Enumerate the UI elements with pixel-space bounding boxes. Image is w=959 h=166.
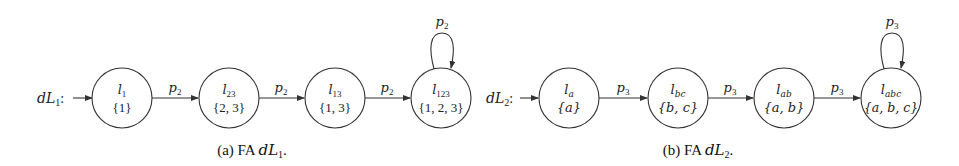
caption-b: (b) FA dL2. bbox=[663, 141, 734, 160]
state-lab: lab {a, b} bbox=[754, 68, 814, 128]
self-loop-labc: p3 bbox=[881, 14, 903, 69]
transition-l23-l13: p2 bbox=[259, 80, 304, 98]
automaton-label: dL1: bbox=[37, 90, 64, 108]
svg-text:{1}: {1} bbox=[113, 100, 132, 115]
svg-text:{a, b, c}: {a, b, c} bbox=[864, 100, 918, 115]
automata-figure: dL1: l1 {1} l23 {2, 3} l13 {1, 3} l123 {… bbox=[0, 0, 959, 166]
fa-dl2: dL2: la {a} lbc {b, c} lab {a, b} labc {… bbox=[486, 14, 921, 160]
svg-text:p3: p3 bbox=[617, 80, 630, 97]
transition-lbc-lab: p3 bbox=[708, 80, 753, 98]
transition-l1-l23: p2 bbox=[152, 80, 198, 98]
transition-l13-l123: p2 bbox=[365, 80, 410, 98]
state-l23: l23 {2, 3} bbox=[199, 68, 259, 128]
state-l13: l13 {1, 3} bbox=[305, 68, 365, 128]
svg-text:p3: p3 bbox=[724, 80, 737, 97]
transition-lab-labc: p3 bbox=[814, 80, 860, 98]
state-l1: l1 {1} bbox=[92, 68, 152, 128]
svg-text:p2: p2 bbox=[381, 80, 394, 97]
svg-text:p3: p3 bbox=[886, 14, 899, 31]
svg-text:{2, 3}: {2, 3} bbox=[213, 100, 245, 115]
automaton-label: dL2: bbox=[486, 90, 513, 108]
transition-la-lbc: p3 bbox=[599, 80, 647, 98]
svg-text:{1, 2, 3}: {1, 2, 3} bbox=[419, 100, 464, 115]
svg-text:{1, 3}: {1, 3} bbox=[319, 100, 351, 115]
svg-text:p2: p2 bbox=[169, 80, 182, 97]
svg-text:p2: p2 bbox=[436, 14, 449, 31]
state-la: la {a} bbox=[539, 68, 599, 128]
svg-text:{a}: {a} bbox=[557, 100, 581, 115]
self-loop-l123: p2 bbox=[431, 14, 453, 69]
svg-text:p2: p2 bbox=[275, 80, 288, 97]
svg-text:{b, c}: {b, c} bbox=[658, 100, 698, 115]
state-labc: labc {a, b, c} bbox=[861, 68, 921, 128]
state-lbc: lbc {b, c} bbox=[648, 68, 708, 128]
fa-dl1: dL1: l1 {1} l23 {2, 3} l13 {1, 3} l123 {… bbox=[37, 14, 471, 160]
caption-a: (a) FA dL1. bbox=[217, 141, 287, 160]
svg-text:p3: p3 bbox=[831, 80, 844, 97]
svg-text:{a, b}: {a, b} bbox=[764, 100, 805, 115]
state-l123: l123 {1, 2, 3} bbox=[411, 68, 471, 128]
